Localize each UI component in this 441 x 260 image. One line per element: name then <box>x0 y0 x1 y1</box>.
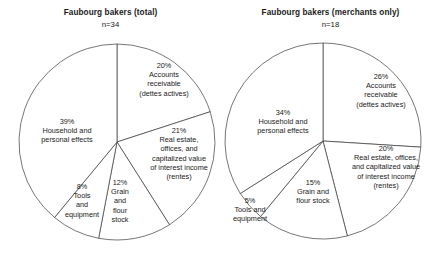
pie-slice-text: Real estate, offices, and capitalized va… <box>150 135 208 181</box>
pie-slice-text: Accounts receivable (dettes actives) <box>356 81 405 108</box>
pie-slice-label: 15%Grain and flour stock <box>282 178 344 206</box>
pie-slice-label: 20%Real estate, offices, and capitalized… <box>340 144 432 190</box>
pie-slice-label: 5%Tools and equipment <box>222 196 278 224</box>
pie-slice-percent: 21% <box>140 126 218 135</box>
chart-panel-merchants: Faubourg bakers (merchants only) n=18 26… <box>220 0 441 260</box>
pie-slice-percent: 26% <box>340 72 422 81</box>
pie-slice-percent: 5% <box>222 196 278 205</box>
pie-slice-label: 26%Accounts receivable (dettes actives) <box>340 72 422 109</box>
pie-slice-label: 12%Grain and flour stock <box>104 178 136 224</box>
pie-slice-percent: 12% <box>104 178 136 187</box>
pie-slice-text: Grain and flour stock <box>111 187 129 224</box>
pie-slice-text: Real estate, offices, and capitalized va… <box>352 153 420 190</box>
pie-slice-percent: 15% <box>282 178 344 187</box>
pie-slice-percent: 20% <box>340 144 432 153</box>
pie-slice-label: 34%Household and personal effects <box>240 108 326 136</box>
pie-slice-percent: 34% <box>240 108 326 117</box>
pie-slice-text: Grain and flour stock <box>296 187 329 205</box>
pie-slice-text: Tools and equipment <box>65 191 99 218</box>
pie-slice-percent: 20% <box>126 61 202 70</box>
pie-slice-percent: 8% <box>60 182 104 191</box>
pie-slice-label: 21%Real estate, offices, and capitalized… <box>140 126 218 181</box>
pie-slice-label: 20%Accounts receivable (dettes actives) <box>126 61 202 98</box>
pie-chart-figure: Faubourg bakers (total) n=34 20%Accounts… <box>0 0 441 260</box>
pie-slice-text: Tools and equipment <box>233 205 267 223</box>
pie-slice-label: 39%Household and personal effects <box>26 117 108 145</box>
pie-slice-label: 8%Tools and equipment <box>60 182 104 219</box>
pie-slice-text: Accounts receivable (dettes actives) <box>139 70 188 97</box>
pie-slice-percent: 39% <box>26 117 108 126</box>
pie-slice-text: Household and personal effects <box>41 126 92 144</box>
chart-panel-total: Faubourg bakers (total) n=34 20%Accounts… <box>0 0 221 260</box>
pie-slice-text: Household and personal effects <box>257 117 308 135</box>
